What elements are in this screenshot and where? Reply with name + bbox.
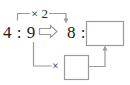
diagram-connectors-layer [0,0,130,85]
bottom-multiplier-label: × [52,60,59,72]
left-ratio-text: 4 : 9 [3,24,36,41]
factor-box[interactable] [65,56,89,80]
implies-block-arrow [40,26,58,38]
right-ratio-text: 8 : [67,24,86,41]
factor-to-answer-connector [89,46,107,67]
ratio-equivalence-diagram: 4 : 9 8 : × 2 × [0,0,130,85]
bottom-multiplier-bracket [34,42,53,66]
top-multiplier-label: × 2 [31,7,48,20]
connector-arrowhead [103,46,108,51]
answer-box[interactable] [87,22,124,46]
